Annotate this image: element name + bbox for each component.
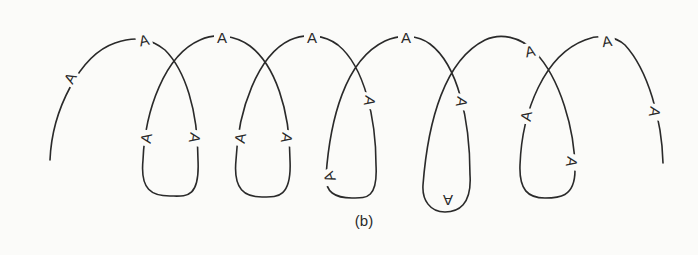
a-mark-label: A <box>217 29 227 46</box>
a-mark-label: A <box>443 192 453 209</box>
a-mark: A <box>516 107 536 126</box>
figure-caption: (b) <box>0 212 698 229</box>
a-mark: A <box>230 129 250 148</box>
helix-curve <box>50 36 663 212</box>
a-mark: A <box>598 31 616 50</box>
a-mark-label: A <box>401 29 411 46</box>
a-mark: A <box>185 129 205 148</box>
a-mark: A <box>59 67 82 89</box>
a-mark: A <box>645 103 665 122</box>
a-mark: A <box>520 41 539 61</box>
a-mark: A <box>452 93 472 112</box>
a-mark: A <box>562 153 582 172</box>
a-mark: A <box>360 92 380 111</box>
a-mark: A <box>214 29 230 46</box>
a-mark: A <box>304 29 320 46</box>
a-mark-label: A <box>307 29 317 46</box>
a-mark: A <box>318 167 339 188</box>
a-mark: A <box>440 192 456 209</box>
a-mark: A <box>134 30 153 50</box>
a-mark: A <box>398 29 414 46</box>
a-mark: A <box>136 129 156 148</box>
a-mark: A <box>277 129 297 148</box>
